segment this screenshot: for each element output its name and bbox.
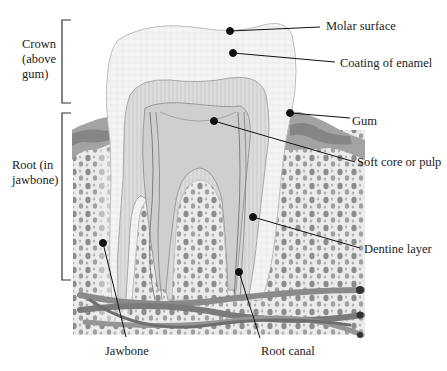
crown-label-line: Crown [22, 37, 64, 52]
root-label: Root (in jawbone) [12, 158, 64, 188]
callout-root-canal: Root canal [261, 344, 315, 359]
callout-dentine-layer: Dentine layer [364, 242, 432, 257]
root-label-line: jawbone) [12, 173, 64, 188]
callout-coating-of-enamel: Coating of enamel [340, 56, 432, 71]
crown-label-line: gum) [22, 67, 64, 82]
root-label-line: Root (in [12, 158, 64, 173]
callout-molar-surface: Molar surface [326, 19, 396, 34]
crown-label-line: (above [22, 52, 64, 67]
tooth [106, 23, 296, 300]
root-bracket [62, 113, 71, 280]
callout-soft-core-or-pulp: Soft core or pulp [357, 155, 441, 170]
callout-jawbone: Jawbone [105, 344, 149, 359]
crown-label: Crown (above gum) [22, 37, 64, 82]
tooth-diagram: Crown (above gum) Root (in jawbone) Mola… [0, 0, 447, 371]
callout-gum: Gum [352, 114, 377, 129]
